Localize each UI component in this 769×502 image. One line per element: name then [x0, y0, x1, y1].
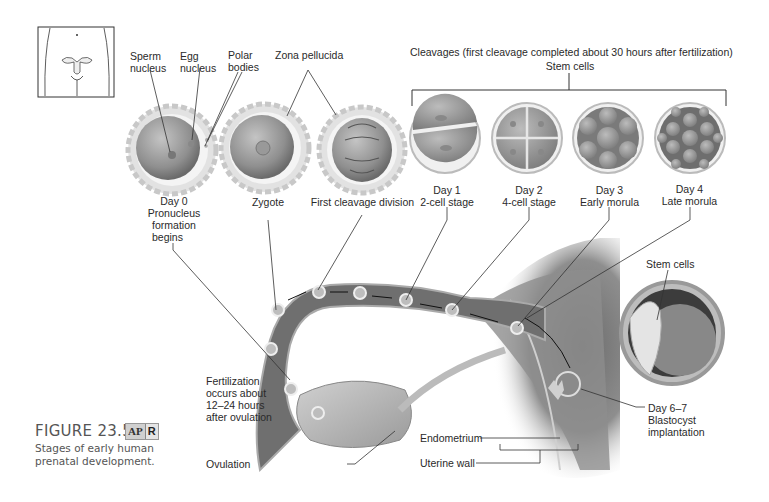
figure-caption: Stages of early human prenatal developme…: [35, 442, 155, 467]
stage-label-day0: Day 0Pronucleusformationbegins: [143, 195, 205, 243]
label-cleavages: Cleavages (first cleavage completed abou…: [410, 46, 730, 58]
zygote: [221, 104, 309, 192]
cell-day2: [492, 103, 562, 173]
stage-label-day1: Day 12-cell stage: [412, 184, 482, 208]
label-egg-nucleus: Eggnucleus: [180, 50, 216, 74]
stage-label-first-cleavage: First cleavage division: [310, 196, 415, 208]
uterus: [470, 238, 620, 478]
label-sperm-nucleus: Spermnucleus: [130, 50, 166, 74]
label-ovulation: Ovulation: [206, 458, 250, 470]
cell-day4-late-morula: [655, 103, 725, 173]
cell-day1: [410, 94, 480, 173]
stage-label-day4: Day 4Late morula: [652, 183, 727, 207]
cell-day3-early-morula: [573, 103, 643, 173]
label-uterine-wall: Uterine wall: [420, 457, 475, 469]
stage-label-day3: Day 3Early morula: [572, 184, 647, 208]
label-zona-pellucida: Zona pellucida: [275, 49, 343, 61]
label-stem-cells-top: Stem cells: [530, 60, 610, 72]
badge-r: R: [146, 424, 158, 439]
badge-ap: AP: [126, 424, 146, 439]
stage-label-zygote: Zygote: [243, 196, 293, 208]
stage-label-day2: Day 24-cell stage: [494, 184, 564, 208]
label-endometrium: Endometrium: [420, 432, 482, 444]
egg-day0: [128, 106, 216, 194]
first-cleavage-cell: [319, 107, 405, 193]
figure-number: FIGURE 23.5: [35, 422, 132, 440]
label-polar-bodies: Polarbodies: [228, 49, 259, 73]
label-blastocyst-implantation: Day 6–7Blastocystimplantation: [648, 402, 705, 438]
blastocyst-detail: [621, 282, 723, 384]
apr-badge[interactable]: AP R: [125, 423, 159, 440]
label-stem-cells-blastocyst: Stem cells: [646, 258, 694, 270]
body-locator-icon: [38, 27, 114, 97]
label-fertilization: Fertilizationoccurs about12–24 hoursafte…: [206, 375, 272, 423]
